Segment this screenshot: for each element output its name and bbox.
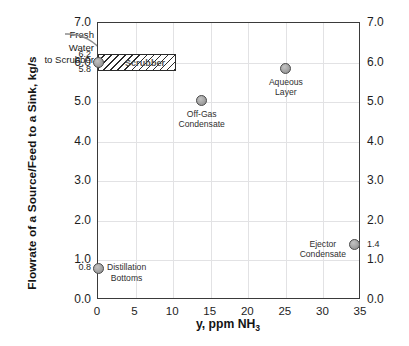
data-point-marker [349, 239, 360, 250]
data-point-label: DistillationBottoms [107, 262, 146, 283]
y-axis-tick-label-left: 3.0 [45, 173, 91, 187]
x-axis-tick-label: 20 [241, 305, 254, 317]
y-axis-tick-label-left: 2.0 [45, 213, 91, 227]
y-axis-minor-tick-label-right: 1.4 [367, 239, 380, 249]
annotation-line-1: Fresh [8, 29, 94, 42]
y-axis-tick-label-right: 6.0 [367, 55, 384, 69]
data-point-label: Off-GasCondensate [179, 109, 225, 130]
x-axis-title: y, ppm NH3 [196, 317, 260, 333]
gridline-vertical [248, 23, 249, 298]
x-axis-tick-label: 35 [354, 305, 367, 317]
y-axis-tick-label-left: 5.0 [45, 94, 91, 108]
data-point-label-line: Aqueous [269, 77, 303, 87]
y-axis-tick-label-right: 0.0 [367, 292, 384, 306]
gridline-horizontal [98, 102, 359, 103]
y-axis-tick-label-right: 7.0 [367, 15, 384, 29]
y-axis-tick-label-left: 7.0 [45, 15, 91, 29]
data-point-label-line: Distillation [107, 262, 146, 272]
chart-figure: Fresh Water to Scrubber Flowrate of a So… [0, 0, 409, 346]
y-axis-tick-label-right: 5.0 [367, 94, 384, 108]
y-axis-tick-label-left: 4.0 [45, 134, 91, 148]
x-axis-title-main: y, ppm NH [196, 317, 255, 331]
gridline-horizontal [98, 221, 359, 222]
y-axis-tick-label-right: 4.0 [367, 134, 384, 148]
x-axis-tick-label: 30 [316, 305, 329, 317]
y-axis-tick-label-right: 2.0 [367, 213, 384, 227]
gridline-vertical [211, 23, 212, 298]
y-axis-tick-label-left: 0.0 [45, 292, 91, 306]
x-axis-tick-label: 0 [94, 305, 100, 317]
data-point-marker [196, 95, 207, 106]
data-point-marker [280, 63, 291, 74]
y-axis-minor-tick-label-left: 5.8 [53, 64, 91, 74]
data-point-label-line: Bottoms [107, 273, 146, 283]
y-axis-minor-tick-label-left: 0.8 [53, 262, 91, 272]
x-axis-tick-label: 5 [131, 305, 137, 317]
gridline-horizontal [98, 142, 359, 143]
y-axis-tick-label-right: 1.0 [367, 252, 384, 266]
data-point-label-line: Condensate [300, 249, 346, 259]
y-axis-minor-tick-label-left: 6.2 [53, 49, 91, 59]
x-axis-title-subscript: 3 [255, 323, 260, 333]
y-axis-tick-label-right: 3.0 [367, 173, 384, 187]
x-axis-tick-label: 15 [203, 305, 216, 317]
x-axis-tick-label: 10 [166, 305, 179, 317]
gridline-horizontal [98, 181, 359, 182]
data-point-label: AqueousLayer [269, 77, 303, 98]
hatched-region-label: Scrubber [125, 58, 165, 68]
data-point-marker [93, 57, 104, 68]
data-point-label-line: Layer [269, 87, 303, 97]
plot-area: Scrubber DistillationBottomsOff-GasConde… [97, 22, 360, 299]
x-axis-tick-label: 25 [278, 305, 291, 317]
data-point-marker [93, 263, 104, 274]
data-point-label-line: Condensate [179, 119, 225, 129]
data-point-label-line: Ejector [300, 239, 346, 249]
data-point-label-line: Off-Gas [179, 109, 225, 119]
data-point-label: EjectorCondensate [300, 239, 346, 260]
gridline-horizontal [98, 260, 359, 261]
y-axis-title: Flowrate of a Source/Feed to a Sink, kg/… [25, 56, 39, 290]
